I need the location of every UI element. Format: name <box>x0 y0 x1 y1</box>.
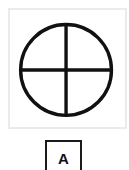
option-a-box[interactable]: A <box>45 140 82 170</box>
figure-panel <box>8 8 127 129</box>
circle-cross-figure <box>10 10 125 127</box>
option-label: A <box>58 151 69 166</box>
